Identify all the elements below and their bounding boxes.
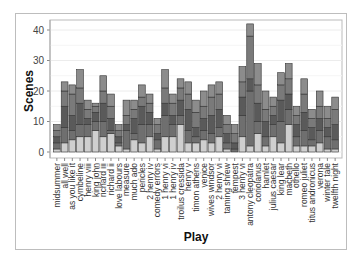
bar-segment (316, 131, 323, 143)
bar-segment (154, 134, 161, 140)
bar-segment (162, 115, 169, 136)
bar-segment (309, 146, 316, 152)
bar-segment (293, 146, 300, 152)
bar-segment (285, 94, 292, 109)
bar-segment (115, 137, 122, 143)
bar-segment (324, 128, 331, 137)
bar-segment (316, 91, 323, 106)
bar-segment (208, 134, 215, 143)
bar-segment (154, 149, 161, 152)
bar-segment (332, 140, 339, 149)
bar-segment (139, 85, 146, 97)
bar-segment (100, 91, 107, 103)
bar-segment (100, 76, 107, 91)
bar-segment (216, 137, 223, 152)
bar-segment (285, 64, 292, 79)
bar-segment (69, 140, 76, 152)
bar-segment (100, 122, 107, 137)
bar-segment (316, 143, 323, 152)
bar-segment (324, 137, 331, 149)
bar-segment (239, 67, 246, 82)
bar-segment (309, 128, 316, 140)
bar-segment (77, 137, 84, 152)
bar-segment (84, 118, 91, 124)
bar-segment (131, 118, 138, 133)
bar-segment (278, 143, 285, 152)
bar-segment (169, 94, 176, 103)
bar-segment (69, 94, 76, 115)
bar-segment (200, 131, 207, 140)
bar-segment (254, 122, 261, 134)
bar-segment (293, 106, 300, 115)
bar-segment (193, 137, 200, 143)
bar-segment (200, 118, 207, 130)
bar-segment (123, 100, 130, 115)
bar-segment (54, 125, 61, 131)
bar-segment (301, 146, 308, 152)
bar-segment (270, 115, 277, 124)
bar-segment (100, 103, 107, 121)
bar-segment (61, 91, 68, 106)
bar-segment (139, 97, 146, 106)
bar-segment (139, 143, 146, 152)
bar-segment (61, 106, 68, 127)
bar-segment (177, 115, 184, 124)
bar-segment (61, 143, 68, 152)
bar-segment (239, 82, 246, 97)
bar-segment (224, 134, 231, 143)
bar-segment (208, 85, 215, 97)
bar-segment (162, 70, 169, 88)
bar-segment (131, 140, 138, 152)
bar-segment (115, 131, 122, 137)
bar-segment (154, 125, 161, 134)
bar-segment (108, 131, 115, 134)
bar-segment (123, 149, 130, 152)
bar-segment (108, 94, 115, 106)
bar-segment (69, 115, 76, 130)
bar-segment (131, 100, 138, 109)
bar-segment (115, 146, 122, 152)
bar-segment (262, 122, 269, 137)
bar-segment (262, 91, 269, 109)
bar-segment (208, 143, 215, 152)
stacked-bar-chart: 010203040 midsummerall wellas you like i… (0, 0, 360, 264)
bar-segment (185, 82, 192, 94)
bar-segment (278, 100, 285, 121)
bar-segment (208, 115, 215, 133)
bar-segment (200, 106, 207, 118)
bar-segment (185, 143, 192, 152)
bar-segment (185, 109, 192, 130)
bar-segment (216, 128, 223, 137)
bar-segment (108, 118, 115, 130)
bar-segment (169, 103, 176, 115)
bar-segment (247, 146, 254, 152)
bar-segment (285, 125, 292, 152)
bar-segment (262, 109, 269, 121)
bar-segment (301, 79, 308, 94)
bar-segment (301, 94, 308, 112)
bar-segment (254, 103, 261, 121)
bar-segment (92, 106, 99, 112)
bar-segment (162, 88, 169, 103)
bar-segment (84, 100, 91, 109)
bar-segment (146, 137, 153, 152)
bar-segment (146, 112, 153, 124)
bar-segment (239, 115, 246, 136)
x-axis: midsummerall wellas you like itcymbeline… (52, 158, 340, 226)
bar-segment (169, 115, 176, 124)
bar-segment (177, 100, 184, 115)
bar-segment (247, 79, 254, 91)
bar-segment (224, 149, 231, 152)
bar-segment (332, 149, 339, 152)
bar-segment (77, 88, 84, 103)
bar-segment (216, 94, 223, 109)
bar-segment (84, 125, 91, 137)
bar-segment (177, 79, 184, 88)
bar-segment (61, 128, 68, 143)
bar-segment (262, 146, 269, 152)
bar-segment (262, 137, 269, 146)
bar-segment (309, 140, 316, 146)
y-axis-label: Scenes (22, 70, 36, 112)
y-tick-label: 30 (33, 55, 45, 66)
bar-segment (123, 131, 130, 149)
